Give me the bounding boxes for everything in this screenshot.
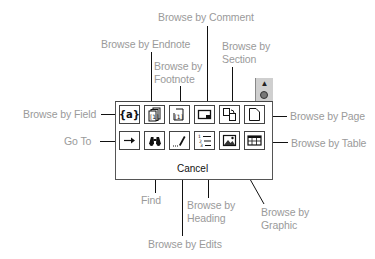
comment-icon [197,108,212,121]
pencil-icon [172,133,187,148]
up-arrow-icon[interactable]: ▲ [256,78,273,89]
field-braces-icon: {a} [119,109,140,120]
label-browse-by-edits: Browse by Edits [148,238,222,250]
label-browse-by-field: Browse by Field [23,108,96,120]
label-browse-by-section-line2: Section [222,53,256,65]
label-browse-by-heading-line2: Heading [187,212,225,224]
find-button[interactable] [144,131,165,150]
browse-by-field-button[interactable]: {a} [119,105,140,124]
binoculars-icon [148,135,162,146]
footnote-icon: [1] [172,107,187,122]
svg-text:[1]: [1] [175,113,184,120]
browse-by-table-button[interactable] [244,131,265,150]
browse-tab[interactable]: ▲ [255,78,273,102]
browse-by-edits-button[interactable] [169,131,190,150]
label-find: Find [141,194,161,206]
browse-by-section-button[interactable] [219,105,240,124]
heading-list-icon: 1 2 3 [197,133,212,148]
browse-by-heading-button[interactable]: 1 2 3 [194,131,215,150]
endnote-icon: [1] [147,107,162,122]
browse-by-graphic-button[interactable] [219,131,240,150]
graphic-icon [222,134,237,147]
go-to-button[interactable] [119,131,140,150]
arrow-right-icon [123,136,136,145]
label-browse-by-comment: Browse by Comment [158,11,254,23]
browse-by-endnote-button[interactable]: [1] [144,105,165,124]
label-browse-by-table: Browse by Table [291,137,366,149]
browse-by-footnote-button[interactable]: [1] [169,105,190,124]
label-browse-by-endnote: Browse by Endnote [101,38,190,50]
label-browse-by-footnote-line1: Browse by [154,60,202,72]
label-browse-by-footnote-line2: Footnote [154,73,195,85]
label-go-to: Go To [64,135,91,147]
svg-text:[1]: [1] [150,113,159,120]
label-browse-by-graphic-line2: Graphic [261,219,297,231]
cancel-button[interactable]: Cancel [177,163,208,174]
table-icon [247,135,262,146]
section-icon [222,107,237,122]
svg-text:3: 3 [200,143,203,148]
browse-by-comment-button[interactable] [194,105,215,124]
browse-by-page-button[interactable] [244,105,265,124]
label-browse-by-graphic-line1: Browse by [261,206,309,218]
select-browse-object-icon[interactable] [260,91,268,99]
label-browse-by-section-line1: Browse by [222,40,270,52]
label-browse-by-page: Browse by Page [290,110,365,122]
page-icon [248,107,261,122]
